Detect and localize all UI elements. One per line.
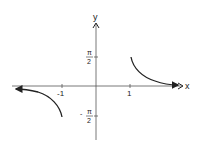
x-axis-label: x (185, 81, 190, 91)
curve-left-branch (16, 89, 62, 117)
arccsc-graph: x y -1 1 π 2 - π 2 (0, 0, 199, 152)
y-tick-label-pi-half-num: π (87, 49, 92, 56)
curve-right-branch (131, 57, 178, 85)
x-tick-label-neg1: -1 (57, 89, 65, 98)
y-tick-label-pi-half-den: 2 (87, 58, 91, 65)
y-tick-label-neg-sign: - (80, 110, 83, 117)
y-tick-label-neg-pi-half-num: π (87, 108, 92, 115)
y-axis-label: y (93, 12, 98, 22)
x-tick-label-1: 1 (127, 89, 132, 98)
y-tick-label-neg-pi-half-den: 2 (87, 117, 91, 124)
